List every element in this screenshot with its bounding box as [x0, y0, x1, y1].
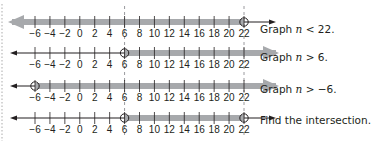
step-2-label: Graph: [260, 51, 292, 63]
step-3-value: −6.: [318, 83, 337, 95]
tick-label: 14: [179, 124, 191, 135]
tick-label: 0: [77, 124, 83, 135]
tick-label: 2: [92, 59, 98, 70]
tick-label: −2: [59, 92, 71, 103]
tick-label: 8: [137, 59, 143, 70]
tick-label: 16: [194, 59, 206, 70]
tick-label: −6: [29, 59, 41, 70]
tick-label: 10: [149, 92, 161, 103]
shaded-arrow-left-icon: [8, 15, 24, 29]
tick-label: 12: [164, 28, 176, 39]
tick-label: 14: [179, 92, 191, 103]
tick-label: 18: [209, 92, 221, 103]
step-2-value: 6.: [318, 51, 328, 63]
tick-label: 2: [92, 124, 98, 135]
tick-label: 20: [224, 59, 236, 70]
tick-label: −6: [29, 28, 41, 39]
tick-label: 6: [122, 28, 128, 39]
tick-label: 2: [92, 92, 98, 103]
tick-label: 10: [149, 59, 161, 70]
step-4-label: Find the intersection.: [260, 114, 371, 126]
tick-label: 22: [238, 124, 250, 135]
step-3-operator: >: [302, 83, 317, 95]
shaded-solution-region: [12, 19, 244, 25]
tick-label: −2: [59, 124, 71, 135]
tick-label: 18: [209, 28, 221, 39]
tick-label: 4: [107, 124, 113, 135]
tick-label: 0: [77, 59, 83, 70]
tick-label: 22: [238, 92, 250, 103]
step-2-operator: >: [302, 51, 317, 63]
tick-label: 14: [179, 59, 191, 70]
step-1-text: Graph n < 22.: [260, 23, 335, 35]
tick-label: 12: [164, 92, 176, 103]
tick-label: 8: [137, 92, 143, 103]
tick-label: 20: [224, 92, 236, 103]
tick-label: −6: [29, 124, 41, 135]
step-1-value: 22.: [318, 23, 335, 35]
step-3-label: Graph: [260, 83, 292, 95]
tick-label: 18: [209, 124, 221, 135]
tick-label: 12: [164, 124, 176, 135]
tick-label: 12: [164, 59, 176, 70]
tick-label: 0: [77, 92, 83, 103]
left-arrow-icon: [10, 51, 17, 56]
tick-label: −6: [29, 92, 41, 103]
tick-label: 10: [149, 28, 161, 39]
tick-label: −4: [44, 28, 56, 39]
tick-label: 20: [224, 124, 236, 135]
tick-label: 16: [194, 28, 206, 39]
tick-label: 8: [137, 28, 143, 39]
tick-label: 4: [107, 28, 113, 39]
tick-label: 16: [194, 124, 206, 135]
tick-label: 6: [122, 92, 128, 103]
tick-label: 6: [122, 59, 128, 70]
tick-label: −4: [44, 59, 56, 70]
tick-label: 14: [179, 28, 191, 39]
tick-label: 16: [194, 92, 206, 103]
step-2-text: Graph n > 6.: [260, 51, 328, 63]
shaded-solution-region: [125, 50, 276, 56]
tick-label: 20: [224, 28, 236, 39]
left-arrow-icon: [10, 116, 17, 121]
tick-label: 4: [107, 59, 113, 70]
step-4-text: Find the intersection.: [260, 114, 371, 126]
shaded-solution-region: [35, 83, 276, 89]
tick-label: 22: [238, 59, 250, 70]
tick-label: −2: [59, 28, 71, 39]
step-3-text: Graph n > −6.: [260, 83, 337, 95]
left-arrow-icon: [10, 84, 17, 89]
tick-label: 2: [92, 28, 98, 39]
step-1-operator: <: [302, 23, 317, 35]
tick-label: 22: [238, 28, 250, 39]
tick-label: 6: [122, 124, 128, 135]
tick-label: 8: [137, 124, 143, 135]
tick-label: 10: [149, 124, 161, 135]
tick-label: −4: [44, 92, 56, 103]
step-1-label: Graph: [260, 23, 292, 35]
tick-label: 4: [107, 92, 113, 103]
tick-label: 18: [209, 59, 221, 70]
tick-label: −2: [59, 59, 71, 70]
tick-label: 0: [77, 28, 83, 39]
tick-label: −4: [44, 124, 56, 135]
